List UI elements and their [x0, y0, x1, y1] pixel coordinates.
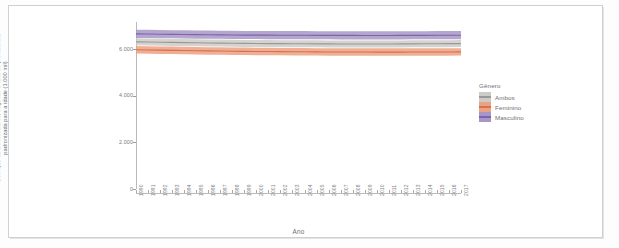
y-tick-mark [133, 142, 136, 143]
legend: Gênero AmbosFemininoMasculino [479, 82, 524, 122]
legend-items: AmbosFemininoMasculino [479, 92, 524, 122]
y-tick-mark [133, 189, 136, 190]
legend-label: Feminino [495, 104, 521, 111]
legend-item[interactable]: Ambos [479, 92, 524, 102]
chart-plot-area: Doenças cardiovasculares, segundo a taxa… [0, 0, 619, 248]
legend-title: Gênero [479, 82, 524, 89]
legend-item[interactable]: Feminino [479, 102, 524, 112]
legend-label: Masculino [495, 114, 524, 121]
legend-swatch [479, 112, 491, 122]
legend-item[interactable]: Masculino [479, 112, 524, 122]
legend-swatch [479, 92, 491, 102]
y-tick-mark [133, 96, 136, 97]
y-tick-mark [133, 49, 136, 50]
series-plot [0, 0, 619, 248]
scanned-page: Doenças cardiovasculares, segundo a taxa… [0, 0, 619, 248]
legend-swatch [479, 102, 491, 112]
legend-label: Ambos [495, 94, 515, 101]
